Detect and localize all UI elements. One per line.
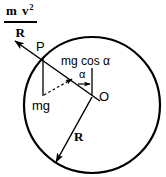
label-center-o: O: [99, 90, 109, 103]
fraction-numerator-text: m v: [6, 3, 30, 18]
label-radius-r: R: [74, 130, 83, 143]
fraction-exponent: 2: [30, 3, 35, 12]
weight-component-dashed-arrow: [44, 79, 72, 95]
label-point-p: P: [36, 40, 45, 53]
label-weight-component: mg cos α: [61, 55, 110, 67]
label-angle-alpha: α: [79, 69, 85, 80]
centripetal-acceleration-fraction: m v2 R: [4, 3, 37, 41]
physics-diagram: m v2 R P O mg mg cos α α R: [0, 0, 166, 177]
fraction-denominator: R: [4, 24, 37, 41]
label-weight-mg: mg: [32, 99, 50, 112]
fraction-numerator: m v2: [4, 3, 37, 20]
fraction-bar: [4, 21, 37, 23]
centripetal-force-arrow: [15, 41, 100, 101]
